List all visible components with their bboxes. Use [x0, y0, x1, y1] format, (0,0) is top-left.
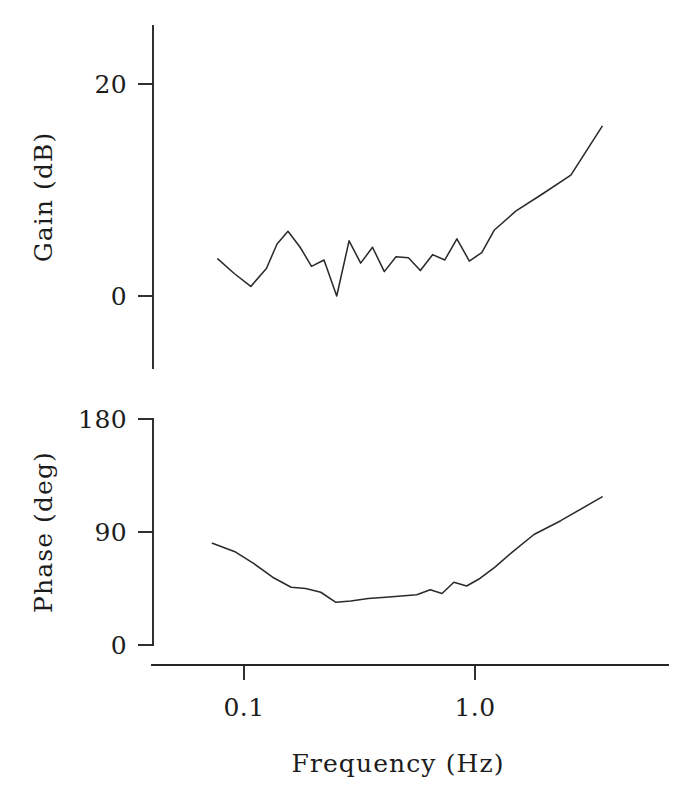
gain-data-curve: [218, 126, 602, 296]
phase-panel: [138, 419, 668, 680]
phase-ytick-label-0: 0: [111, 631, 127, 660]
phase-data-curve: [212, 497, 602, 602]
frequency-axis-title: Frequency (Hz): [291, 749, 504, 778]
gain-axis-title: Gain (dB): [29, 132, 58, 263]
plot-canvas: 20 0 180 90 0 0.1 1.0 Gain (dB) Phase (d…: [0, 0, 700, 799]
freq-xtick-label-0.1: 0.1: [224, 693, 265, 722]
phase-ytick-label-180: 180: [78, 405, 127, 434]
phase-ytick-label-90: 90: [94, 518, 127, 547]
freq-xtick-label-1.0: 1.0: [455, 693, 496, 722]
bode-plot-figure: 20 0 180 90 0 0.1 1.0 Gain (dB) Phase (d…: [0, 0, 700, 799]
gain-ytick-label-20: 20: [94, 70, 127, 99]
phase-axis-title: Phase (deg): [29, 451, 58, 613]
gain-panel: [138, 26, 602, 368]
gain-ytick-label-0: 0: [111, 282, 127, 311]
